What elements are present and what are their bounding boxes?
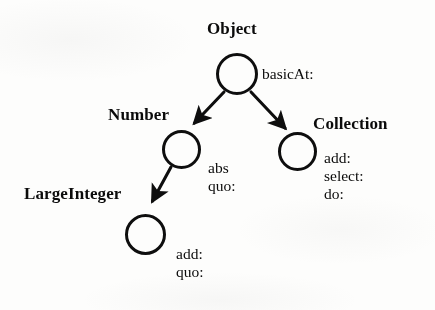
class-hierarchy-figure: Object basicAt: Number abs quo: Collecti… bbox=[0, 0, 435, 310]
method-list-collection: add: select: do: bbox=[324, 149, 364, 203]
method-list-object: basicAt: bbox=[262, 65, 314, 83]
node-circle-number[interactable] bbox=[162, 130, 201, 169]
edge-object-to-number bbox=[195, 92, 225, 123]
node-circle-largeinteger[interactable] bbox=[125, 214, 166, 255]
edge-layer bbox=[0, 0, 435, 310]
method-item: add: bbox=[176, 245, 204, 263]
method-list-largeinteger: add: quo: bbox=[176, 245, 204, 281]
method-item: select: bbox=[324, 167, 364, 185]
method-item: basicAt: bbox=[262, 65, 314, 83]
method-item: quo: bbox=[208, 177, 236, 195]
class-label-object: Object bbox=[207, 19, 257, 38]
method-item: do: bbox=[324, 185, 364, 203]
method-item: quo: bbox=[176, 263, 204, 281]
edge-number-to-largeinteger bbox=[153, 167, 172, 201]
node-circle-object[interactable] bbox=[216, 53, 258, 95]
class-label-number: Number bbox=[108, 105, 169, 124]
class-label-collection: Collection bbox=[313, 114, 388, 133]
node-circle-collection[interactable] bbox=[278, 132, 317, 171]
method-item: abs bbox=[208, 159, 236, 177]
edge-object-to-collection bbox=[251, 92, 285, 128]
method-list-number: abs quo: bbox=[208, 159, 236, 195]
class-label-largeinteger: LargeInteger bbox=[24, 184, 122, 203]
method-item: add: bbox=[324, 149, 364, 167]
